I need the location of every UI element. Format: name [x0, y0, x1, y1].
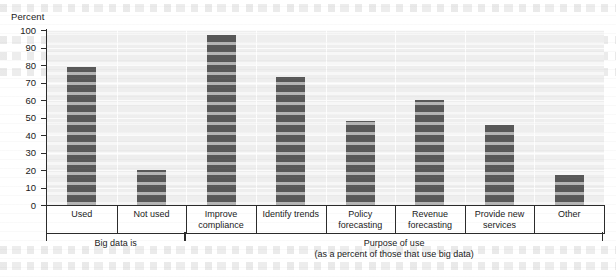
bar — [67, 67, 96, 205]
category-separator — [256, 30, 257, 205]
y-tick-label: 30 — [0, 148, 36, 158]
y-tick-label: 0 — [0, 201, 36, 211]
bar — [415, 100, 444, 205]
category-label: Not used — [117, 206, 187, 233]
category-label-text: Policy forecasting — [326, 209, 396, 230]
category-label: Identify trends — [256, 206, 326, 233]
y-tick-label: 90 — [0, 43, 36, 53]
y-axis-title: Percent — [11, 11, 44, 22]
y-tick-label: 50 — [0, 113, 36, 123]
category-label: Other — [534, 206, 604, 233]
y-tick-label: 70 — [0, 78, 36, 88]
bar — [555, 175, 584, 205]
bar — [276, 77, 305, 205]
category-separator — [186, 30, 187, 205]
category-label-text: Improvecompliance — [198, 209, 244, 230]
y-tick-label: 80 — [0, 61, 36, 71]
y-tick-mark — [41, 65, 46, 66]
y-tick-mark — [41, 48, 46, 49]
group-label-text: Big data is — [95, 238, 137, 249]
y-tick-label: 20 — [0, 166, 36, 176]
category-label: Provide newservices — [465, 206, 535, 233]
category-label: Improvecompliance — [186, 206, 256, 233]
category-label-text: Other — [558, 209, 581, 220]
category-label-text: Used — [71, 209, 92, 220]
group-label-band: Big data isPurpose of use(as a percent o… — [46, 234, 605, 262]
y-tick-mark — [41, 118, 46, 119]
y-tick-mark — [41, 153, 46, 154]
y-tick-mark — [41, 170, 46, 171]
category-label: Revenueforecasting — [395, 206, 465, 233]
category-label: Policy forecasting — [326, 206, 396, 233]
group-label: Big data is — [46, 234, 185, 262]
category-label-text: Not used — [133, 209, 169, 220]
bar — [137, 170, 166, 205]
y-tick-label: 100 — [0, 26, 36, 36]
bar — [207, 35, 236, 205]
y-tick-mark — [41, 30, 46, 31]
y-tick-mark — [41, 100, 46, 101]
y-axis-line — [46, 29, 47, 206]
y-tick-label: 60 — [0, 96, 36, 106]
bar-chart: Percent 0102030405060708090100 UsedNot u… — [0, 0, 616, 277]
category-label-band: UsedNot usedImprovecomplianceIdentify tr… — [46, 206, 605, 234]
category-label-text: Provide newservices — [475, 209, 525, 230]
group-label-text: Purpose of use — [364, 238, 425, 249]
bar — [346, 121, 375, 205]
category-separator — [534, 30, 535, 205]
category-separator — [395, 30, 396, 205]
category-label-text: Revenueforecasting — [408, 209, 452, 230]
y-tick-mark — [41, 135, 46, 136]
y-tick-mark — [41, 83, 46, 84]
y-tick-label: 10 — [0, 183, 36, 193]
category-label-text: Identify trends — [262, 209, 319, 220]
group-label: Purpose of use(as a percent of those tha… — [185, 234, 603, 262]
category-separator — [465, 30, 466, 205]
category-label: Used — [47, 206, 117, 233]
group-sublabel-text: (as a percent of those that use big data… — [315, 249, 474, 260]
y-tick-mark — [41, 188, 46, 189]
category-separator — [326, 30, 327, 205]
plot-area — [47, 30, 604, 205]
y-tick-label: 40 — [0, 131, 36, 141]
bar — [485, 125, 514, 206]
category-separator — [117, 30, 118, 205]
